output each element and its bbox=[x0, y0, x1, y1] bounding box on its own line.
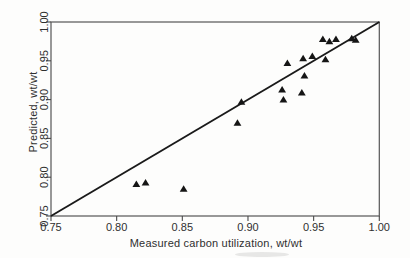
scatter-point-triangle bbox=[234, 119, 242, 126]
y-tick-label: 0.75 bbox=[38, 205, 50, 226]
x-tick-label: 0.90 bbox=[237, 221, 258, 233]
scatter-point-triangle bbox=[280, 96, 288, 103]
scatter-point-triangle bbox=[180, 185, 188, 192]
scatter-point-triangle bbox=[308, 53, 316, 60]
scatter-point-triangle bbox=[332, 35, 340, 42]
y-tick-label: 0.85 bbox=[38, 128, 50, 149]
parity-reference-line bbox=[51, 22, 379, 216]
scatter-point-triangle bbox=[298, 89, 306, 96]
scatter-point-triangle bbox=[322, 56, 330, 63]
scatter-points bbox=[132, 35, 359, 192]
y-tick-label: 0.95 bbox=[38, 50, 50, 71]
scatter-point-triangle bbox=[278, 86, 286, 93]
parity-scatter-chart: 0.750.800.850.900.951.00 0.750.800.850.9… bbox=[0, 0, 410, 258]
scatter-point-triangle bbox=[325, 38, 333, 45]
x-tick-label: 1.00 bbox=[369, 221, 390, 233]
y-tick-label: 1.00 bbox=[38, 11, 50, 32]
y-tick-label: 0.80 bbox=[38, 166, 50, 187]
scatter-point-triangle bbox=[283, 60, 291, 67]
x-axis-title: Measured carbon utilization, wt/wt bbox=[130, 237, 303, 249]
scatter-point-triangle bbox=[132, 181, 140, 188]
scatter-point-triangle bbox=[319, 35, 327, 42]
parity-plot-figure: 0.750.800.850.900.951.00 0.750.800.850.9… bbox=[0, 0, 410, 258]
x-tick-label: 0.95 bbox=[303, 221, 324, 233]
x-axis-ticks: 0.750.800.850.900.951.00 bbox=[40, 216, 390, 233]
scatter-point-triangle bbox=[299, 55, 307, 62]
y-axis-ticks: 0.750.800.850.900.951.00 bbox=[38, 11, 52, 226]
x-tick-label: 0.85 bbox=[172, 221, 193, 233]
scatter-point-triangle bbox=[301, 72, 309, 79]
y-axis-title: Predicted, wt/wt bbox=[27, 72, 39, 153]
x-tick-label: 0.80 bbox=[106, 221, 127, 233]
scan-artifact-smudge bbox=[235, 252, 289, 257]
scatter-point-triangle bbox=[142, 179, 150, 186]
y-tick-label: 0.90 bbox=[38, 89, 50, 110]
